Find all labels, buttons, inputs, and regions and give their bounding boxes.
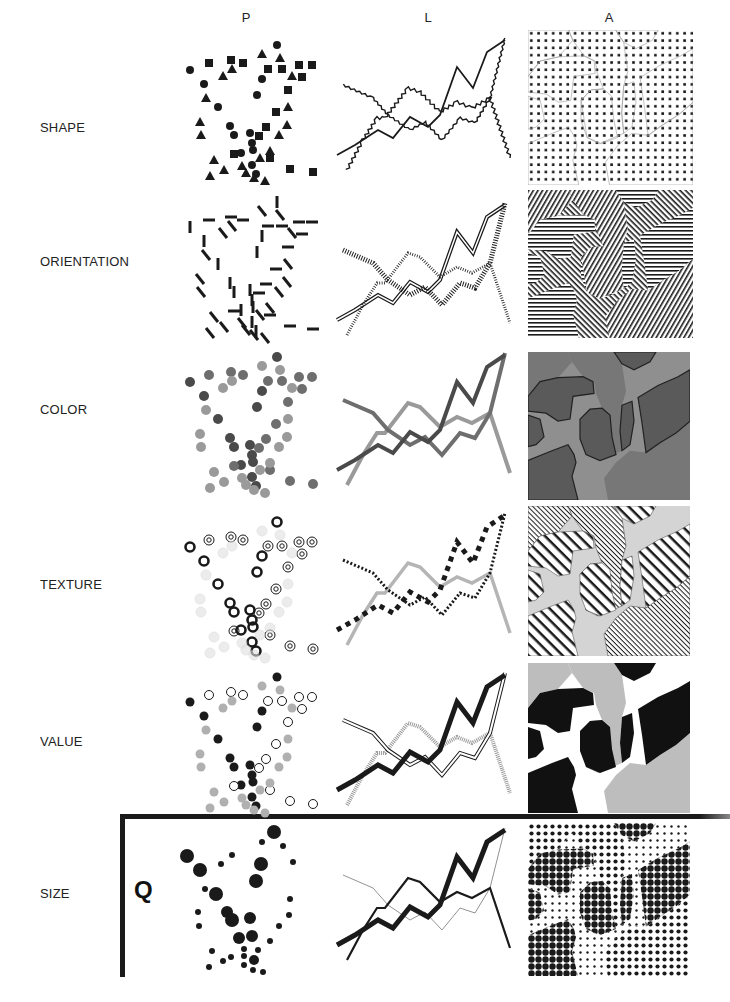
panel-shape-line: [335, 30, 520, 190]
panel-size-line: [335, 820, 520, 980]
panel-color-line: [335, 345, 520, 505]
panel-value-point: [180, 660, 330, 820]
panel-orientation-point: [180, 185, 330, 345]
row-label-shape: SHAPE: [40, 120, 85, 135]
quantitative-bracket-side: [120, 815, 125, 977]
panel-size-area: [528, 823, 690, 976]
panel-shape-area: [528, 30, 693, 185]
panel-size-point: [180, 820, 330, 980]
row-label-orientation: ORIENTATION: [40, 254, 129, 269]
panel-texture-area: [528, 506, 690, 656]
row-label-texture: TEXTURE: [40, 577, 102, 592]
quantitative-marker: Q: [134, 876, 153, 904]
row-label-value: VALUE: [40, 734, 83, 749]
panel-texture-point: [180, 505, 330, 665]
panel-shape-point: [180, 28, 330, 188]
panel-orientation-area: [528, 190, 693, 338]
panel-value-line: [335, 665, 520, 825]
column-header-area: A: [599, 10, 619, 25]
panel-texture-line: [335, 505, 520, 665]
panel-color-point: [180, 340, 330, 500]
panel-value-area: [528, 663, 690, 813]
column-header-point: P: [236, 10, 256, 25]
panel-color-area: [528, 352, 690, 500]
row-label-color: COLOR: [40, 402, 87, 417]
row-label-size: SIZE: [40, 886, 70, 901]
column-header-line: L: [418, 10, 438, 25]
panel-orientation-line: [335, 195, 520, 355]
